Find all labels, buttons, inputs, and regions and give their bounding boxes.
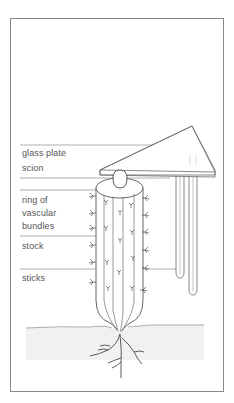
stock-icon	[96, 178, 143, 336]
label-stock: stock	[22, 240, 44, 253]
glass-plate-icon	[100, 126, 215, 177]
soil-icon	[26, 325, 204, 360]
label-sticks: sticks	[22, 272, 45, 285]
scion-icon	[113, 170, 127, 188]
label-ring-of-vascular-bundles: ring of vascular bundles	[22, 194, 56, 233]
label-glass-plate: glass plate	[22, 147, 66, 160]
label-scion: scion	[22, 162, 44, 175]
